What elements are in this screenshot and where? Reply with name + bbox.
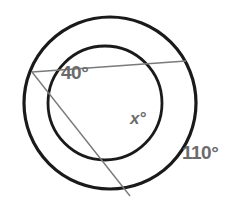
arc-angle-label: 110° xyxy=(182,143,218,162)
circle-diagram xyxy=(0,0,241,204)
secant-line-upper xyxy=(32,61,186,72)
secant-line-lower xyxy=(32,72,130,196)
unknown-angle-label: x° xyxy=(130,110,145,127)
outer-circle xyxy=(24,17,196,189)
inner-angle-label: 40° xyxy=(61,63,88,82)
geometry-figure: 40° x° 110° xyxy=(0,0,241,204)
